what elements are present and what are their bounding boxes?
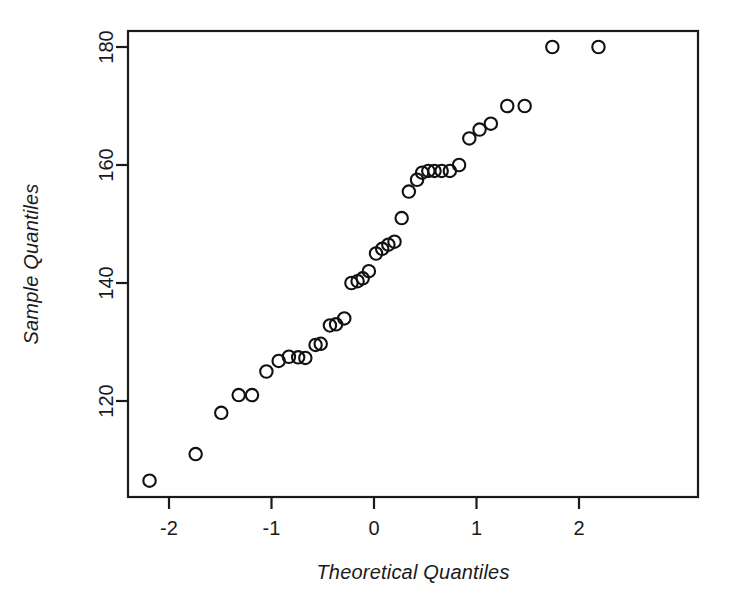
qq-plot-figure: -2-1012 120140160180 Theoretical Quantil… xyxy=(0,0,734,610)
x-tick-label: -2 xyxy=(160,517,178,539)
y-tick-label: 160 xyxy=(95,148,117,181)
y-tick-label: 140 xyxy=(95,266,117,299)
y-tick-label: 180 xyxy=(95,30,117,63)
y-axis-title: Sample Quantiles xyxy=(20,183,42,344)
x-tick-label: 0 xyxy=(368,517,379,539)
x-axis-title: Theoretical Quantiles xyxy=(316,561,509,583)
qq-plot-canvas: -2-1012 120140160180 Theoretical Quantil… xyxy=(0,0,734,610)
x-tick-label: 1 xyxy=(471,517,482,539)
y-tick-label: 120 xyxy=(95,384,117,417)
plot-background xyxy=(0,0,734,610)
x-tick-label: -1 xyxy=(263,517,281,539)
x-tick-label: 2 xyxy=(573,517,584,539)
